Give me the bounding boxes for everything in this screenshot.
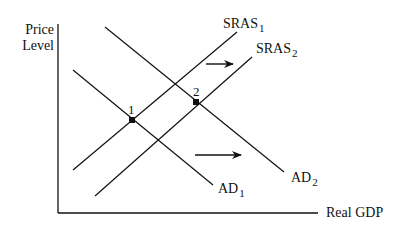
- sras1-name: SRAS: [223, 16, 258, 31]
- ad1-curve: [73, 70, 213, 185]
- y-axis-label: Price Level: [4, 22, 54, 54]
- y-axis-label-line1: Price: [4, 22, 54, 38]
- point-1-label: 1: [128, 102, 135, 118]
- ad2-label: AD2: [291, 171, 318, 185]
- point-2-label: 2: [193, 84, 200, 100]
- sras2-subscript: 2: [292, 47, 298, 59]
- diagram-canvas: [0, 0, 403, 229]
- sras1-curve: [73, 32, 237, 170]
- sras2-name: SRAS: [256, 41, 291, 56]
- ad1-subscript: 1: [239, 187, 245, 199]
- sras1-subscript: 1: [259, 22, 265, 34]
- y-axis-label-line2: Level: [4, 38, 54, 54]
- sras2-label: SRAS2: [256, 42, 298, 56]
- ad2-subscript: 2: [312, 176, 318, 188]
- ad1-label: AD1: [218, 182, 245, 196]
- sras1-label: SRAS1: [223, 17, 265, 31]
- ad2-name: AD: [291, 170, 311, 185]
- ad1-name: AD: [218, 181, 238, 196]
- x-axis-label: Real GDP: [326, 206, 383, 220]
